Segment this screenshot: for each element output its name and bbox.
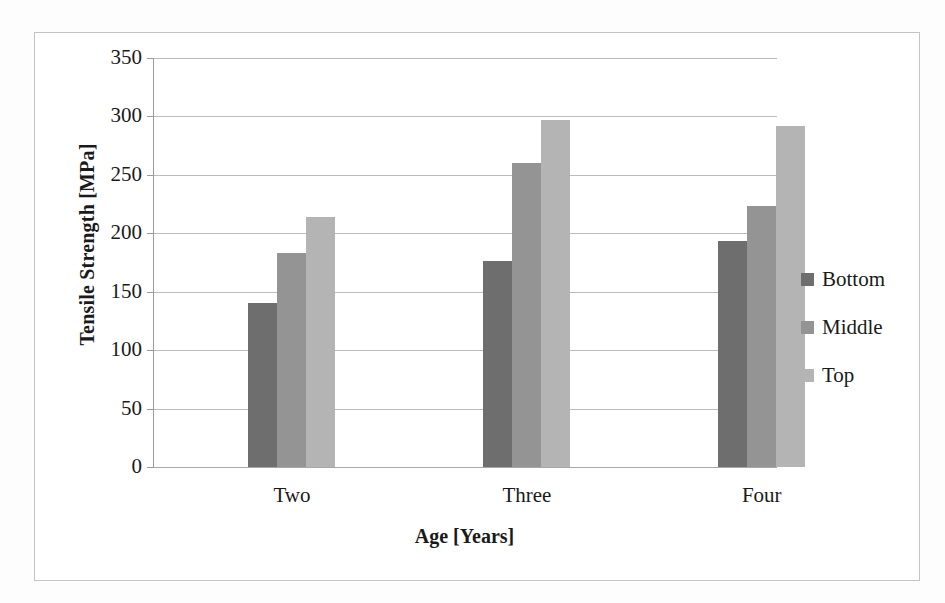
- legend-label: Bottom: [822, 267, 885, 292]
- y-tick-mark: [147, 292, 154, 293]
- legend: BottomMiddleTop: [801, 255, 921, 399]
- y-tick-mark: [147, 58, 154, 59]
- gridline: [154, 409, 777, 410]
- y-tick-label: 250: [82, 162, 142, 187]
- y-tick-label: 200: [82, 220, 142, 245]
- y-tick-mark: [147, 233, 154, 234]
- gridline: [154, 233, 777, 234]
- bar-middle-two[interactable]: [277, 253, 306, 467]
- legend-item-bottom[interactable]: Bottom: [801, 255, 921, 303]
- legend-swatch-bottom: [801, 273, 814, 286]
- x-tick-label: Four: [692, 483, 832, 508]
- gridline: [154, 58, 777, 59]
- y-tick-label: 100: [82, 337, 142, 362]
- x-tick-label: Three: [457, 483, 597, 508]
- bar-top-three[interactable]: [541, 120, 570, 467]
- bar-bottom-two[interactable]: [248, 303, 277, 467]
- plot-inner: 050100150200250300350 TwoThreeFour: [153, 58, 777, 467]
- legend-swatch-top: [801, 369, 814, 382]
- bar-group: Four: [718, 58, 805, 467]
- bar-middle-three[interactable]: [512, 163, 541, 467]
- y-tick-label: 150: [82, 279, 142, 304]
- figure: Tensile Strength [MPa] 05010015020025030…: [0, 0, 945, 603]
- y-tick-mark: [147, 467, 154, 468]
- gridline: [154, 350, 777, 351]
- bar-middle-four[interactable]: [747, 206, 776, 467]
- legend-item-top[interactable]: Top: [801, 351, 921, 399]
- bar-group: Three: [483, 58, 570, 467]
- x-tick-label: Two: [222, 483, 362, 508]
- bar-bottom-four[interactable]: [718, 241, 747, 467]
- y-tick-label: 350: [82, 45, 142, 70]
- y-tick-mark: [147, 350, 154, 351]
- legend-swatch-middle: [801, 321, 814, 334]
- y-tick-label: 300: [82, 103, 142, 128]
- gridline: [154, 467, 777, 468]
- legend-label: Middle: [822, 315, 883, 340]
- figure-frame: Tensile Strength [MPa] 05010015020025030…: [34, 32, 920, 581]
- legend-label: Top: [822, 363, 854, 388]
- y-tick-mark: [147, 409, 154, 410]
- plot-area: 050100150200250300350 TwoThreeFour: [153, 58, 776, 467]
- y-tick-mark: [147, 116, 154, 117]
- y-tick-mark: [147, 175, 154, 176]
- legend-item-middle[interactable]: Middle: [801, 303, 921, 351]
- gridline: [154, 116, 777, 117]
- bar-bottom-three[interactable]: [483, 261, 512, 467]
- y-tick-label: 0: [82, 454, 142, 479]
- x-axis-title: Age [Years]: [153, 525, 776, 548]
- gridline: [154, 175, 777, 176]
- y-tick-label: 50: [82, 396, 142, 421]
- gridline: [154, 292, 777, 293]
- bar-top-two[interactable]: [306, 217, 335, 467]
- bar-group: Two: [248, 58, 335, 467]
